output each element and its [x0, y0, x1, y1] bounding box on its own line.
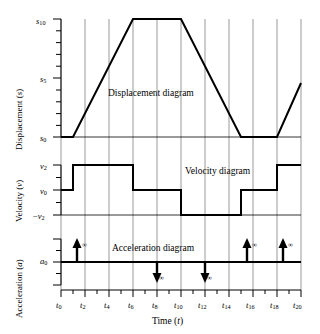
impulse-arrows: [73, 238, 288, 283]
impulse-arrow-t6-down: [153, 262, 162, 283]
velocity-y-axis: [53, 165, 61, 215]
impulse-arrow-t1-up: [73, 238, 82, 262]
x-axis-ticks: [61, 290, 301, 297]
impulse-arrow-t10-down: [201, 262, 210, 283]
figure-root: Displacement (s) Velocity (v) Accelerati…: [0, 0, 320, 334]
impulse-arrow-t15-up: [243, 238, 252, 262]
acceleration-y-axis: [53, 239, 61, 285]
impulse-arrow-t18-up: [279, 238, 288, 262]
plot-svg: [0, 0, 320, 334]
displacement-y-axis: [53, 19, 61, 137]
gridlines: [61, 19, 301, 290]
